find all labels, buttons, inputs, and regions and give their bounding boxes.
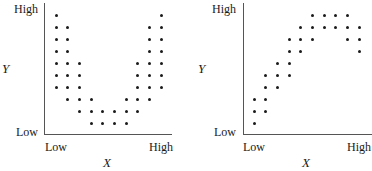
data-point xyxy=(264,98,267,101)
data-point xyxy=(55,50,58,53)
y-axis-line xyxy=(44,3,45,134)
data-point xyxy=(148,50,151,53)
data-point xyxy=(148,86,151,89)
y-axis-title: Y xyxy=(198,62,205,75)
data-point xyxy=(160,26,163,29)
data-point xyxy=(55,74,58,77)
data-point xyxy=(148,38,151,41)
x-axis-title: X xyxy=(103,156,111,169)
data-point xyxy=(55,26,58,29)
data-point xyxy=(346,14,349,17)
data-point xyxy=(148,74,151,77)
data-point xyxy=(66,26,69,29)
data-point xyxy=(125,110,128,113)
data-point xyxy=(78,86,81,89)
data-point xyxy=(66,62,69,65)
data-point xyxy=(334,14,337,17)
data-point xyxy=(101,110,104,113)
data-point xyxy=(160,86,163,89)
data-point xyxy=(66,98,69,101)
data-point xyxy=(78,98,81,101)
data-point xyxy=(136,74,139,77)
data-point xyxy=(66,50,69,53)
y-tick-low: Low xyxy=(214,126,236,138)
y-axis-title: Y xyxy=(2,62,9,75)
data-point xyxy=(160,62,163,65)
data-point xyxy=(90,122,93,125)
data-point xyxy=(148,98,151,101)
x-tick-low: Low xyxy=(243,141,265,153)
data-point xyxy=(125,98,128,101)
data-point xyxy=(136,110,139,113)
data-point xyxy=(311,14,314,17)
x-tick-low: Low xyxy=(45,141,67,153)
data-point xyxy=(78,74,81,77)
data-point xyxy=(288,62,291,65)
data-point xyxy=(288,74,291,77)
x-axis-title: X xyxy=(302,156,310,169)
data-point xyxy=(66,86,69,89)
data-point xyxy=(66,38,69,41)
data-point xyxy=(90,110,93,113)
data-point xyxy=(276,62,279,65)
data-point xyxy=(160,38,163,41)
x-axis-line xyxy=(44,134,172,135)
data-point xyxy=(55,38,58,41)
y-tick-high: High xyxy=(212,3,236,15)
data-point xyxy=(253,98,256,101)
data-point xyxy=(136,86,139,89)
data-point xyxy=(346,38,349,41)
data-point xyxy=(78,62,81,65)
data-point xyxy=(160,50,163,53)
data-point xyxy=(264,86,267,89)
data-point xyxy=(276,74,279,77)
y-tick-low: Low xyxy=(16,126,38,138)
y-axis-line xyxy=(243,3,244,134)
data-point xyxy=(311,38,314,41)
x-tick-high: High xyxy=(347,141,371,153)
data-point xyxy=(136,98,139,101)
data-point xyxy=(288,50,291,53)
data-point xyxy=(299,38,302,41)
data-point xyxy=(55,14,58,17)
data-point xyxy=(90,98,93,101)
data-point xyxy=(113,122,116,125)
data-point xyxy=(358,50,361,53)
data-point xyxy=(334,26,337,29)
data-point xyxy=(323,26,326,29)
left-scatter-chart: High Y Low Low High X xyxy=(0,0,186,171)
data-point xyxy=(323,14,326,17)
data-point xyxy=(299,26,302,29)
x-tick-high: High xyxy=(149,141,173,153)
data-point xyxy=(101,122,104,125)
data-point xyxy=(66,74,69,77)
x-axis-line xyxy=(243,134,372,135)
data-point xyxy=(288,38,291,41)
data-point xyxy=(253,122,256,125)
data-point xyxy=(113,110,116,113)
data-point xyxy=(148,26,151,29)
data-point xyxy=(55,86,58,89)
data-point xyxy=(276,86,279,89)
data-point xyxy=(160,74,163,77)
data-point xyxy=(358,26,361,29)
data-point xyxy=(55,62,58,65)
data-point xyxy=(78,110,81,113)
data-point xyxy=(358,38,361,41)
data-point xyxy=(253,110,256,113)
data-point xyxy=(264,74,267,77)
data-point xyxy=(125,122,128,125)
data-point xyxy=(136,62,139,65)
data-point xyxy=(346,26,349,29)
data-point xyxy=(299,50,302,53)
right-scatter-chart: High Y Low Low High X xyxy=(186,0,372,171)
data-point xyxy=(311,26,314,29)
y-tick-high: High xyxy=(14,3,38,15)
data-point xyxy=(148,62,151,65)
data-point xyxy=(160,14,163,17)
data-point xyxy=(264,110,267,113)
